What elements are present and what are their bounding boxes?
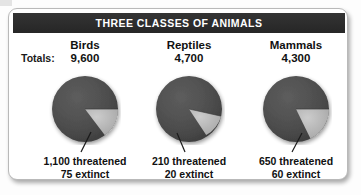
caption-mammals: 650 threatened 60 extinct: [235, 155, 348, 180]
caption-mammals-threatened: 650 threatened: [235, 155, 348, 168]
pie-chart-mammals: [241, 71, 348, 151]
column-header-mammals: Mammals 4,300: [241, 39, 348, 65]
figure-title-bar: THREE CLASSES OF ANIMALS: [13, 13, 345, 33]
pie-graphic-birds: [49, 73, 121, 145]
column-total-mammals: 4,300: [241, 52, 348, 65]
column-header-birds: Birds 9,600: [30, 39, 140, 65]
caption-reptiles-threatened: 210 threatened: [128, 155, 250, 168]
caption-mammals-extinct: 60 extinct: [235, 168, 348, 181]
pie-graphic-reptiles: [153, 73, 225, 145]
scan-artifact: [0, 0, 12, 6]
column-name-reptiles: Reptiles: [134, 39, 244, 52]
pie-chart-birds: [30, 71, 140, 151]
pie-graphic-mammals: [260, 73, 332, 145]
column-name-birds: Birds: [30, 39, 140, 52]
caption-reptiles-extinct: 20 extinct: [128, 168, 250, 181]
page-title: THREE CLASSES OF ANIMALS: [96, 17, 263, 29]
caption-reptiles: 210 threatened 20 extinct: [128, 155, 250, 180]
column-name-mammals: Mammals: [241, 39, 348, 52]
figure-root: THREE CLASSES OF ANIMALS Totals: Birds 9…: [0, 0, 361, 195]
figure-panel: THREE CLASSES OF ANIMALS Totals: Birds 9…: [8, 8, 348, 180]
pie-chart-reptiles: [134, 71, 244, 151]
column-total-reptiles: 4,700: [134, 52, 244, 65]
column-total-birds: 9,600: [30, 52, 140, 65]
column-header-reptiles: Reptiles 4,700: [134, 39, 244, 65]
